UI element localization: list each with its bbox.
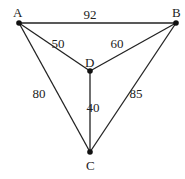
node-label-C: C xyxy=(86,158,95,173)
node-label-D: D xyxy=(85,55,94,70)
graph-svg: 925060804085ABDC xyxy=(0,0,185,179)
node-label-B: B xyxy=(172,5,181,20)
edge-weight-A-B: 92 xyxy=(84,7,97,22)
node-B-dot xyxy=(173,20,179,26)
weighted-graph-diagram: 925060804085ABDC xyxy=(0,0,185,179)
edge-weight-A-D: 50 xyxy=(52,36,65,51)
edge-weight-B-D: 60 xyxy=(111,36,124,51)
edge-weight-A-C: 80 xyxy=(33,86,46,101)
node-C-dot xyxy=(87,149,93,155)
edge-weight-B-C: 85 xyxy=(130,86,143,101)
edge-weight-D-C: 40 xyxy=(87,100,100,115)
edge-B-D xyxy=(90,23,176,71)
node-label-A: A xyxy=(13,5,23,20)
node-A-dot xyxy=(16,20,22,26)
